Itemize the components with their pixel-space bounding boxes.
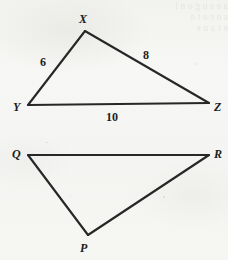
edge-q-p bbox=[28, 155, 88, 235]
side-label-xz: 8 bbox=[143, 49, 149, 61]
side-label-yz: 10 bbox=[106, 111, 118, 123]
edge-x-z bbox=[85, 31, 209, 103]
vertex-label-y: Y bbox=[13, 101, 20, 113]
vertex-label-p: P bbox=[80, 242, 87, 254]
edge-y-z bbox=[28, 103, 209, 105]
triangles-drawing bbox=[0, 0, 228, 260]
vertex-label-z: Z bbox=[214, 101, 221, 113]
triangle-xyz-edges bbox=[28, 31, 209, 105]
edge-p-r bbox=[88, 155, 209, 235]
side-label-xy: 6 bbox=[40, 56, 46, 68]
edge-x-y bbox=[28, 31, 85, 105]
triangle-pqr-edges bbox=[28, 155, 209, 235]
vertex-label-x: X bbox=[79, 13, 87, 25]
vertex-label-r: R bbox=[214, 148, 222, 160]
vertex-label-q: Q bbox=[12, 148, 21, 160]
geometry-figure-sheet: a e s n g o n i s o c e t o e r a n e X … bbox=[0, 0, 228, 260]
